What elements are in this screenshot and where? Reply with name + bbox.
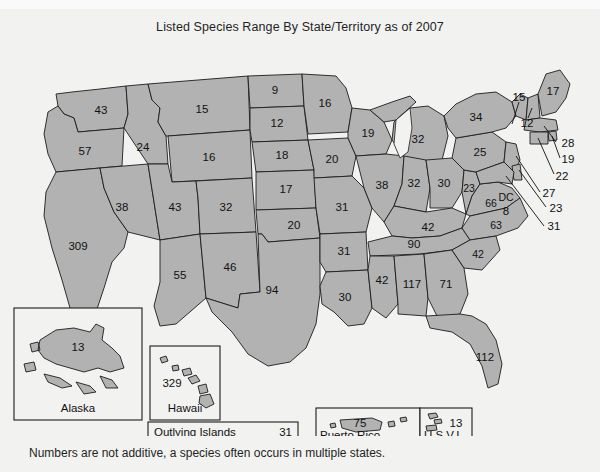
- region-value-OUTLYING: 31: [279, 426, 292, 436]
- state-value-IN: 32: [408, 177, 421, 189]
- state-northdakota[interactable]: 9: [248, 74, 304, 108]
- state-value-WI: 19: [362, 127, 375, 139]
- state-value-TN: 90: [408, 238, 421, 250]
- state-value-AL: 117: [403, 278, 421, 290]
- state-value-OH: 30: [438, 177, 451, 189]
- state-nebraska[interactable]: 18: [252, 140, 314, 172]
- state-value-CT: 22: [556, 170, 569, 182]
- state-oklahoma[interactable]: 20: [256, 208, 320, 242]
- state-value-NY: 34: [470, 111, 483, 123]
- state-value-ME: 17: [547, 85, 560, 97]
- state-value-AR: 31: [338, 245, 351, 257]
- state-value-FL: 112: [476, 351, 494, 363]
- state-value-SD: 12: [271, 117, 284, 129]
- state-value-MD: 31: [548, 220, 561, 232]
- state-value-SC: 42: [472, 248, 484, 260]
- state-value-WV: 23: [463, 182, 475, 194]
- state-minnesota[interactable]: 16: [302, 74, 352, 134]
- state-value-NM: 46: [224, 261, 237, 273]
- state-value-RI: 19: [562, 153, 575, 165]
- inset-label-hawaii: Hawaii: [168, 402, 203, 414]
- state-mississippi[interactable]: 42: [368, 256, 398, 318]
- footnote-text: Numbers are not additive, a species ofte…: [29, 446, 385, 460]
- state-value-OK: 20: [288, 219, 301, 231]
- state-value-UT: 43: [169, 201, 182, 213]
- state-arizona[interactable]: 55: [154, 234, 206, 326]
- state-connecticut[interactable]: [530, 132, 548, 144]
- state-value-MO: 31: [336, 201, 349, 213]
- region-value-VI: 13: [450, 417, 463, 429]
- inset-alaska[interactable]: 13 Alaska: [14, 308, 142, 420]
- inset-puerto-rico[interactable]: 75 Puerto Rico: [316, 408, 420, 436]
- inset-label-alaska: Alaska: [61, 402, 96, 414]
- state-value-WY: 16: [203, 151, 216, 163]
- page-title: Listed Species Range By State/Territory …: [0, 20, 600, 34]
- state-value-NJ: 27: [543, 187, 556, 199]
- state-value-MI: 32: [412, 133, 425, 145]
- state-value-IL: 38: [376, 179, 389, 191]
- state-value-IA: 20: [326, 153, 339, 165]
- state-value-OR: 57: [79, 145, 92, 157]
- inset-label-outlying: Outlying Islands: [154, 426, 236, 436]
- state-value-MT: 15: [196, 103, 209, 115]
- state-value-CO: 32: [220, 201, 233, 213]
- dc-label: DC: [498, 191, 514, 203]
- state-florida[interactable]: 112: [426, 314, 502, 388]
- state-value-LA: 30: [339, 291, 352, 303]
- inset-hawaii[interactable]: 329 Hawaii: [150, 346, 220, 420]
- state-value-TX: 94: [266, 284, 279, 296]
- state-value-CA: 309: [68, 240, 87, 252]
- state-value-NV: 38: [116, 201, 129, 213]
- state-value-ID: 24: [137, 141, 150, 153]
- state-value-VT: 15: [513, 91, 526, 103]
- state-value-KS: 17: [280, 183, 293, 195]
- state-value-GA: 71: [440, 278, 453, 290]
- state-value-ND: 9: [272, 84, 278, 96]
- state-louisiana[interactable]: 30: [320, 270, 372, 326]
- state-alabama[interactable]: 117: [394, 254, 428, 316]
- state-value-MS: 42: [376, 274, 389, 286]
- region-value-AK: 13: [72, 341, 85, 353]
- state-kansas[interactable]: 17: [256, 170, 316, 210]
- state-value-DE: 23: [550, 202, 563, 214]
- page-top-strip: [0, 0, 600, 9]
- state-value-NH: 12: [521, 117, 534, 129]
- state-maine[interactable]: 17: [538, 70, 570, 116]
- region-value-PR: 75: [354, 417, 367, 429]
- us-map-figure: 43 57 309 38 24 15 16 43 55 32 46: [0, 36, 600, 436]
- state-iowa[interactable]: 20: [308, 138, 356, 178]
- state-arkansas[interactable]: 31: [320, 232, 368, 272]
- state-montana[interactable]: 15: [148, 76, 250, 136]
- state-value-NC: 63: [490, 219, 502, 231]
- state-value-WA: 43: [95, 104, 108, 116]
- state-wyoming[interactable]: 16: [168, 130, 252, 182]
- inset-usvi[interactable]: 13 U.S.V.I: [420, 408, 472, 436]
- inset-label-usvi: U.S.V.I: [424, 429, 459, 436]
- inset-outlying-islands[interactable]: Outlying Islands 31: [148, 422, 298, 436]
- state-value-MN: 16: [319, 97, 332, 109]
- region-value-HI: 329: [162, 377, 181, 389]
- state-value-DC: 8: [503, 205, 509, 217]
- state-value-KY: 42: [422, 221, 435, 233]
- state-ohio[interactable]: 30: [426, 158, 464, 208]
- state-southdakota[interactable]: 12: [250, 106, 308, 142]
- state-colorado[interactable]: 32: [196, 178, 256, 234]
- state-value-PA: 25: [474, 146, 487, 158]
- state-value-NE: 18: [276, 149, 289, 161]
- inset-label-puerto-rico: Puerto Rico: [320, 429, 380, 436]
- state-value-AZ: 55: [174, 269, 187, 281]
- state-value-MA: 28: [562, 137, 575, 149]
- state-value-VA: 66: [485, 197, 497, 209]
- state-newyork[interactable]: 34: [444, 92, 516, 138]
